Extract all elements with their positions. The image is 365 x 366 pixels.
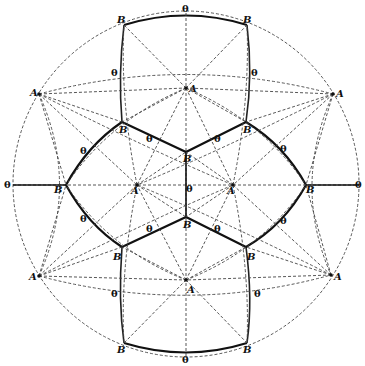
svg-text:θ: θ — [111, 67, 118, 78]
svg-text:A: A — [333, 271, 342, 282]
svg-text:A: A — [186, 284, 195, 295]
svg-text:B: B — [182, 219, 191, 230]
svg-text:θ: θ — [355, 179, 362, 190]
svg-text:A: A — [188, 83, 197, 94]
svg-text:θ: θ — [146, 223, 153, 234]
svg-text:θ: θ — [111, 288, 118, 299]
svg-text:θ: θ — [182, 3, 189, 14]
svg-text:B: B — [242, 14, 251, 25]
a-inner-labels: A A A A — [130, 83, 235, 295]
svg-text:A: A — [335, 88, 344, 99]
svg-text:B: B — [242, 124, 251, 135]
svg-text:θ: θ — [214, 223, 221, 234]
svg-text:B: B — [242, 344, 251, 355]
svg-text:θ: θ — [280, 215, 287, 226]
svg-text:B: B — [116, 344, 125, 355]
svg-text:A: A — [130, 185, 139, 196]
svg-text:θ: θ — [186, 183, 193, 194]
svg-text:θ: θ — [280, 143, 287, 154]
svg-text:θ: θ — [182, 354, 189, 365]
svg-text:A: A — [29, 87, 38, 98]
svg-text:B: B — [246, 251, 255, 262]
svg-text:A: A — [226, 185, 235, 196]
svg-text:A: A — [28, 271, 37, 282]
projection-diagram: θ θ θ θ A A A A A A A A B B B B B B B B — [0, 0, 365, 366]
svg-text:B: B — [118, 124, 127, 135]
svg-text:B: B — [112, 251, 121, 262]
svg-text:θ: θ — [254, 288, 261, 299]
svg-text:θ: θ — [214, 133, 221, 144]
diagram-canvas: θ θ θ θ A A A A A A A A B B B B B B B B — [0, 0, 365, 366]
svg-text:θ: θ — [146, 133, 153, 144]
svg-text:B: B — [182, 153, 191, 164]
svg-text:θ: θ — [80, 213, 87, 224]
svg-text:θ: θ — [251, 67, 258, 78]
svg-text:B: B — [116, 14, 125, 25]
theta-inner-labels: θ θ θ θ θ θ θ θ θ θ θ θ θ — [80, 67, 287, 299]
svg-text:B: B — [53, 184, 62, 195]
svg-text:θ: θ — [80, 145, 87, 156]
svg-text:θ: θ — [4, 179, 11, 190]
svg-text:B: B — [305, 184, 314, 195]
